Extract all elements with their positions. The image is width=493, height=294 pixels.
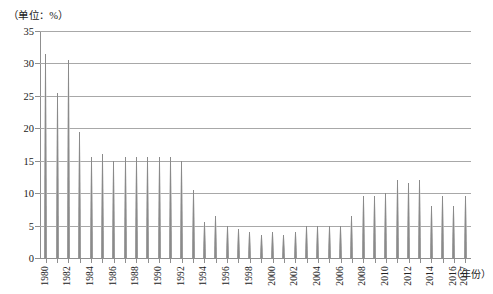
bar	[226, 226, 229, 258]
x-axis-tick-label: 1986	[109, 266, 119, 286]
x-axis-tick-mark	[273, 259, 274, 263]
x-axis-tick-mark	[420, 259, 421, 263]
bar-needle	[397, 180, 398, 258]
bar-needle	[329, 226, 330, 258]
bar-needle	[136, 157, 137, 258]
bar	[248, 232, 251, 258]
x-axis-tick-label: 2014	[426, 266, 436, 286]
bar	[396, 180, 399, 258]
bar	[407, 183, 410, 258]
x-axis-tick-mark	[465, 259, 466, 263]
x-axis-tick-label: 2012	[404, 266, 414, 286]
x-axis-tick-mark	[204, 259, 205, 263]
bar	[282, 235, 285, 258]
x-axis-tick-mark	[409, 259, 410, 263]
bar	[271, 232, 274, 258]
x-axis-tick-mark	[91, 259, 92, 263]
x-axis-tick-label: 2000	[268, 266, 278, 286]
x-axis-tick-mark	[148, 259, 149, 263]
bar-needle	[340, 226, 341, 258]
bar	[339, 226, 342, 258]
bar-needle	[442, 196, 443, 258]
y-axis-tick-label-group: 05101520253035	[0, 0, 34, 294]
x-axis-tick-mark	[68, 259, 69, 263]
bar-needle	[68, 60, 69, 258]
gridline	[40, 128, 471, 129]
gridline	[40, 161, 471, 162]
x-axis-tick-mark	[193, 259, 194, 263]
x-axis-tick-mark	[352, 259, 353, 263]
y-axis-tick-label: 15	[24, 155, 35, 166]
bar	[452, 206, 455, 258]
percentage-spike-chart: （单位：%） 05101520253035 198019821984198619…	[0, 0, 493, 294]
bar-needle	[215, 216, 216, 258]
bar-needle	[125, 157, 126, 258]
y-axis-tick-mark	[35, 96, 40, 97]
x-axis-tick-label: 2002	[290, 266, 300, 286]
x-axis-tick-label: 1992	[177, 266, 187, 286]
x-axis-tick-mark	[329, 259, 330, 263]
bar-needle	[306, 226, 307, 258]
x-axis-tick-label: 1990	[154, 266, 164, 286]
bar-needle	[204, 222, 205, 258]
x-axis-tick-mark	[102, 259, 103, 263]
bar-needle	[102, 154, 103, 258]
bar-needle	[408, 183, 409, 258]
bar-needle	[272, 232, 273, 258]
bar	[146, 157, 149, 258]
x-axis-tick-label: 1996	[222, 266, 232, 286]
bar	[56, 93, 59, 258]
x-axis-tick-mark	[295, 259, 296, 263]
bar-needle	[465, 196, 466, 258]
bar	[67, 60, 70, 258]
x-axis-tick-label: 1994	[199, 266, 209, 286]
x-axis-tick-mark	[284, 259, 285, 263]
bar	[78, 132, 81, 258]
bar	[169, 157, 172, 258]
bar-needle	[79, 132, 80, 258]
x-axis-tick-mark	[238, 259, 239, 263]
y-axis-tick-mark	[35, 161, 40, 162]
x-axis-tick-mark	[363, 259, 364, 263]
x-axis-tick-label: 2004	[313, 266, 323, 286]
bar-needle	[419, 180, 420, 258]
x-axis-tick-mark	[250, 259, 251, 263]
x-axis-tick-mark	[80, 259, 81, 263]
bar	[430, 206, 433, 258]
x-axis-tick-mark	[443, 259, 444, 263]
gridline	[40, 193, 471, 194]
bar	[124, 157, 127, 258]
gridline	[40, 63, 471, 64]
x-axis-tick-mark	[170, 259, 171, 263]
bar-needle	[159, 157, 160, 258]
x-axis-tick-mark	[125, 259, 126, 263]
y-axis-tick-label: 25	[24, 90, 35, 101]
plot-area	[40, 31, 471, 258]
x-axis-tick-mark	[57, 259, 58, 263]
bar	[373, 196, 376, 258]
bar-needle	[261, 235, 262, 258]
x-axis-tick-mark	[431, 259, 432, 263]
bar	[237, 229, 240, 258]
x-axis-tick-mark	[318, 259, 319, 263]
bar-needle	[113, 161, 114, 258]
bar	[418, 180, 421, 258]
y-axis-tick-mark	[35, 31, 40, 32]
x-axis-baseline	[40, 258, 471, 259]
bar-needle	[147, 157, 148, 258]
bar-needle	[385, 193, 386, 258]
bar-needle	[431, 206, 432, 258]
bar	[90, 157, 93, 258]
bar	[305, 226, 308, 258]
bar-needle	[351, 216, 352, 258]
x-axis-tick-mark	[454, 259, 455, 263]
x-axis-tick-mark	[159, 259, 160, 263]
x-axis-tick-mark	[136, 259, 137, 263]
x-axis-tick-mark	[341, 259, 342, 263]
bar	[350, 216, 353, 258]
x-axis-tick-label: 2008	[358, 266, 368, 286]
bar-needle	[91, 157, 92, 258]
bar	[214, 216, 217, 258]
bar	[464, 196, 467, 258]
y-axis-tick-mark	[35, 128, 40, 129]
